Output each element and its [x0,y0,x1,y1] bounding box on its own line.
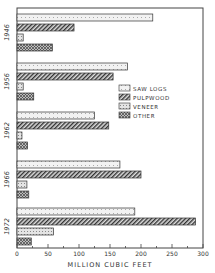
bar-saw-logs-1946 [17,14,153,21]
bar-pulpwood-1972 [17,218,196,225]
year-label: 1972 [3,218,11,235]
bar-veneer-1972 [17,228,54,235]
bar-saw-logs-1956 [17,63,127,70]
bar-veneer-1956 [17,83,23,90]
year-label: 1946 [3,24,11,41]
legend-swatch [119,85,130,91]
year-label: 1962 [3,122,11,139]
legend-swatch [119,94,130,100]
bar-other-1946 [17,44,52,51]
legend-swatch [119,103,130,109]
x-axis-title: MILLION CUBIC FEET [68,261,153,269]
bar-other-1972 [17,238,31,245]
legend-label: PULPWOOD [133,95,170,101]
legend-label: SAW LOGS [133,86,167,92]
bar-other-1956 [17,93,34,100]
bar-pulpwood-1956 [17,73,113,80]
bar-veneer-1966 [17,181,27,188]
bar-saw-logs-1966 [17,161,120,168]
x-tick-label: 150 [104,250,116,257]
legend-label: OTHER [133,113,155,119]
x-axis: 050100150200250300 [15,244,209,257]
x-tick-label: 0 [15,250,19,257]
bar-chart: 19461956196219661972 050100150200250300 … [0,0,215,273]
bar-veneer-1962 [17,132,22,139]
legend-swatch [119,112,130,118]
bar-other-1962 [17,142,28,149]
x-tick-label: 300 [197,250,209,257]
bar-other-1966 [17,191,29,198]
year-labels: 19461956196219661972 [3,24,11,235]
x-tick-label: 50 [44,250,52,257]
x-tick-label: 250 [166,250,178,257]
bar-pulpwood-1962 [17,122,109,129]
legend-label: VENEER [133,104,159,110]
bar-pulpwood-1946 [17,24,74,31]
bar-veneer-1946 [17,34,23,41]
bar-saw-logs-1972 [17,208,135,215]
legend: SAW LOGSPULPWOODVENEEROTHER [119,85,170,119]
year-label: 1966 [3,171,11,188]
x-tick-label: 100 [73,250,85,257]
bars-group [17,14,196,245]
x-tick-label: 200 [135,250,147,257]
bar-saw-logs-1962 [17,112,95,119]
bar-pulpwood-1966 [17,171,141,178]
year-label: 1956 [3,73,11,90]
